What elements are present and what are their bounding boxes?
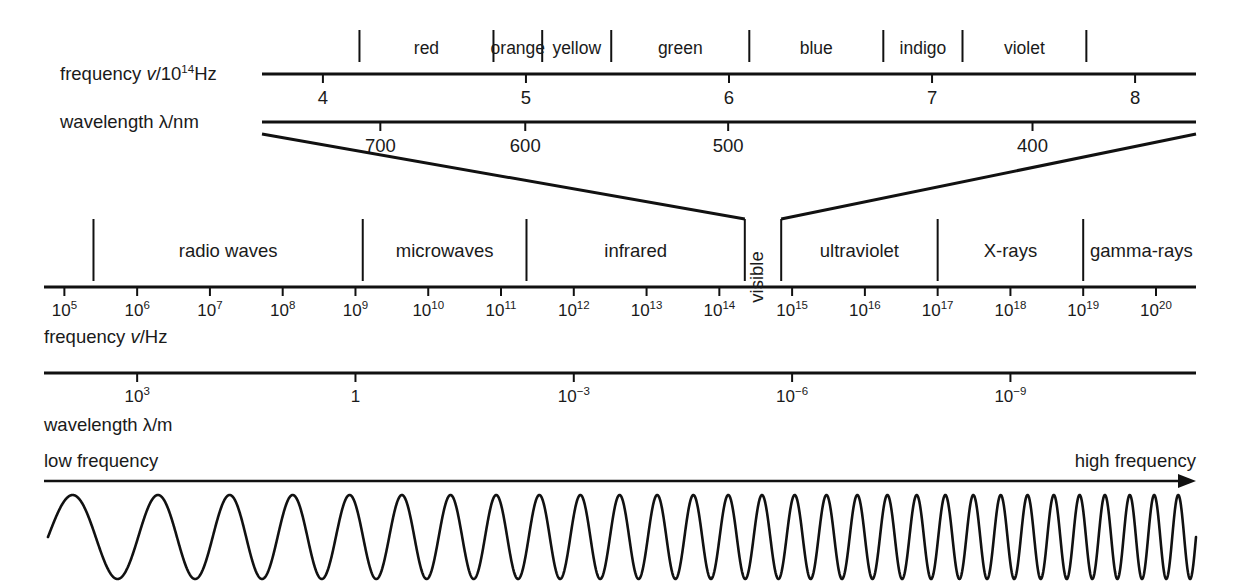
visible-frequency-axis-label: frequency v/1014Hz bbox=[60, 63, 217, 84]
visible-frequency-tick-label: 4 bbox=[318, 87, 328, 108]
visible-frequency-tick-label: 7 bbox=[927, 87, 937, 108]
em-frequency-tick-label: 106 bbox=[124, 299, 149, 320]
visible-wavelength-axis-label: wavelength λ/nm bbox=[59, 111, 199, 132]
em-band-label-X-rays: X-rays bbox=[984, 240, 1037, 261]
em-frequency-tick-label: 1011 bbox=[486, 299, 517, 320]
visible-wavelength-tick-label: 500 bbox=[713, 135, 744, 156]
color-band-label-yellow: yellow bbox=[552, 38, 601, 58]
em-band-label-visible: visible bbox=[746, 251, 767, 302]
high-frequency-label: high frequency bbox=[1075, 450, 1197, 471]
em-frequency-tick-label: 1017 bbox=[922, 299, 954, 320]
em-wavelength-tick-label: 10−6 bbox=[776, 385, 808, 406]
em-band-label-ultraviolet: ultraviolet bbox=[820, 240, 899, 261]
color-band-label-indigo: indigo bbox=[900, 38, 947, 58]
em-frequency-tick-label: 1019 bbox=[1067, 299, 1099, 320]
color-band-label-violet: violet bbox=[1004, 38, 1045, 58]
em-frequency-tick-label: 109 bbox=[343, 299, 368, 320]
em-frequency-tick-label: 1016 bbox=[849, 299, 881, 320]
em-frequency-tick-label: 105 bbox=[52, 299, 77, 320]
em-frequency-tick-label: 1010 bbox=[412, 299, 444, 320]
visible-frequency-tick-label: 6 bbox=[724, 87, 734, 108]
em-wavelength-tick-label: 103 bbox=[124, 385, 149, 406]
visible-connector-right bbox=[781, 134, 1196, 219]
color-band-label-orange: orange bbox=[491, 38, 546, 58]
em-frequency-tick-label: 1014 bbox=[703, 299, 735, 320]
em-frequency-tick-label: 1018 bbox=[995, 299, 1027, 320]
visible-connector-left bbox=[262, 134, 745, 219]
color-band-label-blue: blue bbox=[800, 38, 833, 58]
em-frequency-axis-caption: frequency v/Hz bbox=[44, 326, 167, 347]
em-band-label-radio-waves: radio waves bbox=[179, 240, 278, 261]
em-frequency-tick-label: 1015 bbox=[776, 299, 808, 320]
spectrum-canvas: frequency v/1014Hz45678redorangeyellowgr… bbox=[0, 0, 1238, 585]
em-frequency-tick-label: 107 bbox=[197, 299, 222, 320]
visible-wavelength-tick-label: 400 bbox=[1017, 135, 1048, 156]
em-band-label-infrared: infrared bbox=[604, 240, 667, 261]
em-band-label-gamma-rays: gamma-rays bbox=[1090, 240, 1193, 261]
em-wavelength-tick-label: 10−9 bbox=[994, 385, 1026, 406]
em-wavelength-axis-caption: wavelength λ/m bbox=[43, 414, 173, 435]
em-frequency-tick-label: 1020 bbox=[1140, 299, 1172, 320]
right-arrow-icon bbox=[1178, 474, 1196, 488]
color-band-label-green: green bbox=[658, 38, 703, 58]
visible-wavelength-tick-label: 600 bbox=[510, 135, 541, 156]
frequency-wave bbox=[48, 495, 1196, 579]
visible-frequency-tick-label: 5 bbox=[521, 87, 531, 108]
em-frequency-tick-label: 108 bbox=[270, 299, 295, 320]
low-frequency-label: low frequency bbox=[44, 450, 159, 471]
em-wavelength-tick-label: 10−3 bbox=[558, 385, 590, 406]
em-spectrum-figure: frequency v/1014Hz45678redorangeyellowgr… bbox=[0, 0, 1238, 585]
color-band-label-red: red bbox=[414, 38, 439, 58]
em-frequency-tick-label: 1012 bbox=[558, 299, 590, 320]
em-wavelength-tick-label: 1 bbox=[351, 387, 360, 406]
visible-frequency-tick-label: 8 bbox=[1130, 87, 1140, 108]
em-frequency-tick-label: 1013 bbox=[631, 299, 663, 320]
em-band-label-microwaves: microwaves bbox=[396, 240, 494, 261]
